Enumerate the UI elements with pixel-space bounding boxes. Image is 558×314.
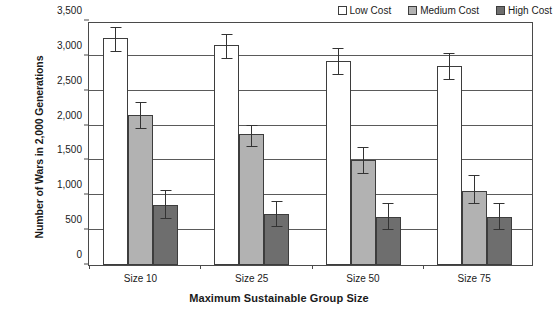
y-axis-tick-label: 1,000	[57, 179, 82, 190]
bar-group	[200, 23, 311, 265]
bar-column	[264, 23, 289, 265]
bar-column	[214, 23, 239, 265]
y-axis-title: Number of Wars in 2,000 Generations	[26, 12, 52, 282]
bar-low[interactable]	[214, 45, 239, 265]
x-axis-tick-label: Size 10	[124, 273, 157, 284]
error-bar	[383, 203, 394, 231]
x-axis-tick-label: Size 75	[458, 273, 491, 284]
bar-medium[interactable]	[351, 160, 376, 265]
legend-item-label: Medium Cost	[420, 5, 479, 16]
bar-group	[89, 23, 200, 265]
bar-column	[437, 23, 462, 265]
legend-item-label: High Cost	[508, 5, 552, 16]
legend-swatch-icon	[408, 6, 417, 15]
legend-item-high[interactable]: High Cost	[496, 5, 552, 16]
error-bar	[494, 203, 505, 230]
x-axis-tick-label: Size 25	[235, 273, 268, 284]
y-axis-tick-label: 2,000	[57, 109, 82, 120]
bar-low[interactable]	[103, 38, 128, 265]
bar-column	[153, 23, 178, 265]
x-axis-tick-mark	[89, 265, 90, 269]
y-axis-tick-label: 3,000	[57, 39, 82, 50]
error-bar	[358, 147, 369, 174]
y-axis-tick-label: 2,500	[57, 74, 82, 85]
bar-column	[462, 23, 487, 265]
bar-column	[103, 23, 128, 265]
bar-group	[423, 23, 534, 265]
legend-swatch-icon	[338, 6, 347, 15]
error-bar	[160, 190, 171, 219]
bar-group	[312, 23, 423, 265]
x-axis-tick-mark	[312, 265, 313, 269]
legend-swatch-icon	[496, 6, 505, 15]
bar-medium[interactable]	[239, 134, 264, 265]
x-axis-tick-label: Size 50	[346, 273, 379, 284]
legend-item-low[interactable]: Low Cost	[338, 5, 392, 16]
x-axis-title: Maximum Sustainable Group Size	[0, 292, 558, 304]
y-axis-tick-label: 3,500	[57, 5, 82, 16]
x-axis-tick-mark	[423, 265, 424, 269]
error-bar	[469, 175, 480, 204]
error-bar	[444, 53, 455, 80]
bar-column	[239, 23, 264, 265]
bar-column	[376, 23, 401, 265]
bar-low[interactable]	[437, 66, 462, 265]
plot-area: 05001,0001,5002,0002,5003,0003,500 Size …	[88, 22, 533, 266]
y-axis-tick-label: 1,500	[57, 144, 82, 155]
error-bar	[110, 27, 121, 53]
error-bar	[333, 48, 344, 75]
error-bar	[246, 125, 257, 147]
y-axis-tick-mark	[84, 20, 89, 21]
bar-chart-figure: Number of Wars in 2,000 Generations 0500…	[0, 0, 558, 314]
error-bar	[221, 34, 232, 60]
bar-column	[128, 23, 153, 265]
legend-item-medium[interactable]: Medium Cost	[408, 5, 479, 16]
bar-medium[interactable]	[128, 115, 153, 265]
bar-low[interactable]	[326, 61, 351, 265]
error-bar	[135, 102, 146, 129]
legend-item-label: Low Cost	[350, 5, 392, 16]
x-axis-tick-mark	[200, 265, 201, 269]
y-axis-tick-label: 500	[65, 214, 82, 225]
bar-column	[487, 23, 512, 265]
bar-column	[351, 23, 376, 265]
bar-column	[326, 23, 351, 265]
y-axis-tick-label: 0	[76, 249, 82, 260]
legend: Low CostMedium CostHigh Cost	[338, 5, 553, 16]
error-bar	[271, 201, 282, 227]
